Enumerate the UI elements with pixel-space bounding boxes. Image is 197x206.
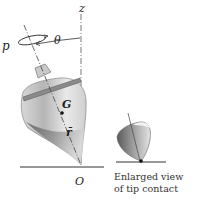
O-label: O [75, 175, 84, 188]
caption-line-2: of tip contact [114, 183, 178, 194]
theta-label: θ [54, 34, 61, 47]
z-label: z [78, 2, 85, 15]
caption-line-1: Enlarged view [114, 171, 183, 182]
spinning-top-diagram: z θ p G r̄ O Enlarged view of tip contac… [0, 0, 197, 206]
G-label: G [62, 98, 71, 111]
spinning-top [21, 64, 86, 165]
center-of-mass-point [60, 111, 64, 115]
p-label: p [2, 39, 10, 53]
spin-arrow [17, 33, 48, 47]
enlarged-tip [117, 113, 151, 163]
